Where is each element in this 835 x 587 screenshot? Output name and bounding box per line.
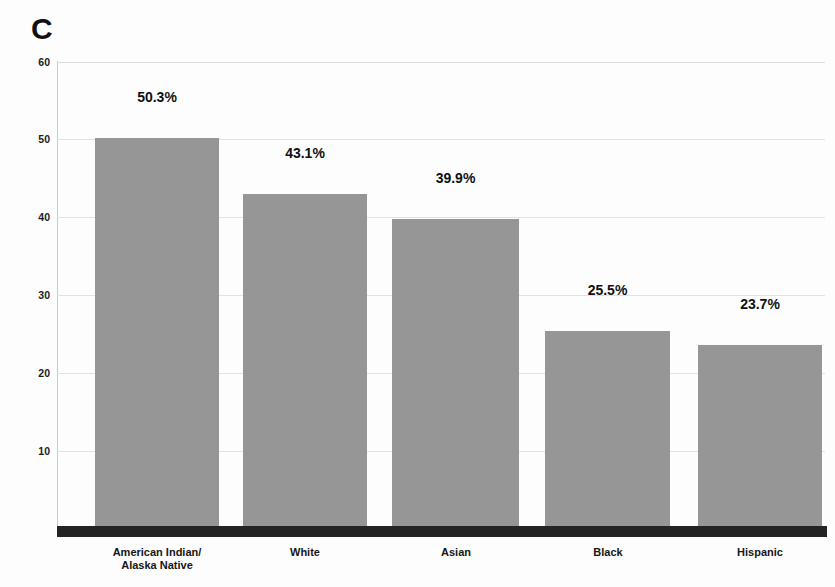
bar[interactable] (95, 138, 219, 527)
x-tick-label: Hispanic (690, 546, 830, 559)
bar-value-label: 39.9% (392, 170, 519, 186)
bar-value-label: 43.1% (243, 145, 367, 161)
x-tick-label: White (235, 546, 375, 559)
bar[interactable] (545, 331, 670, 527)
x-axis-baseline (57, 526, 827, 537)
bar-value-label: 23.7% (698, 296, 822, 312)
x-tick-label: Black (538, 546, 678, 559)
bar[interactable] (243, 194, 367, 527)
bar-chart-figure: C 60 50 40 30 20 10 50.3% American India… (0, 0, 835, 587)
bar-value-label: 50.3% (95, 89, 219, 105)
x-tick-label: American Indian/ Alaska Native (77, 546, 237, 572)
bar[interactable] (698, 345, 822, 527)
bar[interactable] (392, 219, 519, 527)
bars-layer: 50.3% American Indian/ Alaska Native 43.… (0, 0, 835, 587)
bar-value-label: 25.5% (545, 282, 670, 298)
x-tick-label: Asian (386, 546, 526, 559)
